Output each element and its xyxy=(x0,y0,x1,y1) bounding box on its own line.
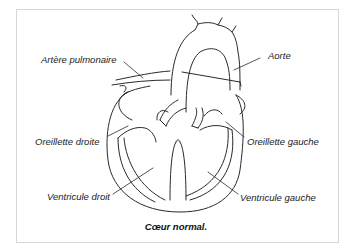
pulmonary-trunk-drawing xyxy=(160,100,203,128)
leader-artere-pulmonaire xyxy=(124,62,143,78)
heart-diagram xyxy=(0,0,352,251)
label-aorte: Aorte xyxy=(268,51,291,61)
leader-ventricule-droit xyxy=(113,168,153,194)
label-ventricule-droit: Ventricule droit xyxy=(47,192,110,202)
pulmonary-artery-drawing xyxy=(112,71,170,95)
figure-caption: Cœur normal. xyxy=(0,221,352,232)
leader-ventricule-gauche xyxy=(208,172,238,194)
heart-outline xyxy=(107,92,245,212)
leader-lines xyxy=(108,58,260,194)
label-ventricule-gauche: Ventricule gauche xyxy=(240,193,316,203)
label-oreillette-droite: Oreillette droite xyxy=(35,137,99,147)
label-oreillette-gauche: Oreillette gauche xyxy=(247,137,319,147)
right-chambers-drawing xyxy=(118,110,168,202)
septum-drawing xyxy=(170,140,186,200)
aorta-drawing xyxy=(171,15,241,112)
leader-aorte xyxy=(234,58,260,70)
leader-oreillette-droite xyxy=(108,126,128,136)
label-artere-pulmonaire: Artère pulmonaire xyxy=(41,55,117,65)
